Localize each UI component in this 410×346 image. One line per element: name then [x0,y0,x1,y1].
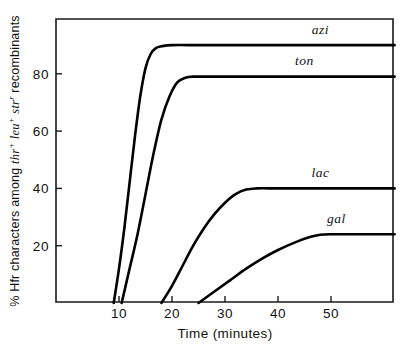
series-label-lac: lac [311,165,329,180]
y-tick-label-40: 40 [33,181,49,196]
curve-ton [122,77,395,303]
y-axis-ticks [56,74,62,246]
plot-frame [56,19,393,302]
y-axis-title: % Hfr characters among thr+ leu+ strr re… [6,15,22,307]
x-axis-title: Time (minutes) [177,326,272,341]
curve-lac [161,188,394,303]
x-axis-tick-labels: 1020304050 [111,306,339,321]
x-tick-label-40: 40 [270,306,286,321]
y-axis-tick-labels: 20406080 [33,67,49,254]
curve-gal [199,234,395,303]
series-label-azi: azi [312,22,329,37]
y-tick-label-60: 60 [33,124,49,139]
series-label-gal: gal [327,211,346,226]
x-tick-label-10: 10 [111,306,127,321]
x-tick-label-20: 20 [164,306,180,321]
series-label-ton: ton [295,53,314,68]
series-labels: azitonlacgal [295,22,346,226]
y-tick-label-80: 80 [33,67,49,82]
x-tick-label-30: 30 [217,306,233,321]
interrupted-mating-kinetics-chart: 20406080 1020304050 azitonlacgal Time (m… [0,0,410,346]
y-tick-label-20: 20 [33,239,49,254]
x-tick-label-50: 50 [323,306,339,321]
chart-figure: 20406080 1020304050 azitonlacgal Time (m… [0,0,410,346]
x-axis-ticks [119,296,331,302]
data-curves [114,45,395,303]
